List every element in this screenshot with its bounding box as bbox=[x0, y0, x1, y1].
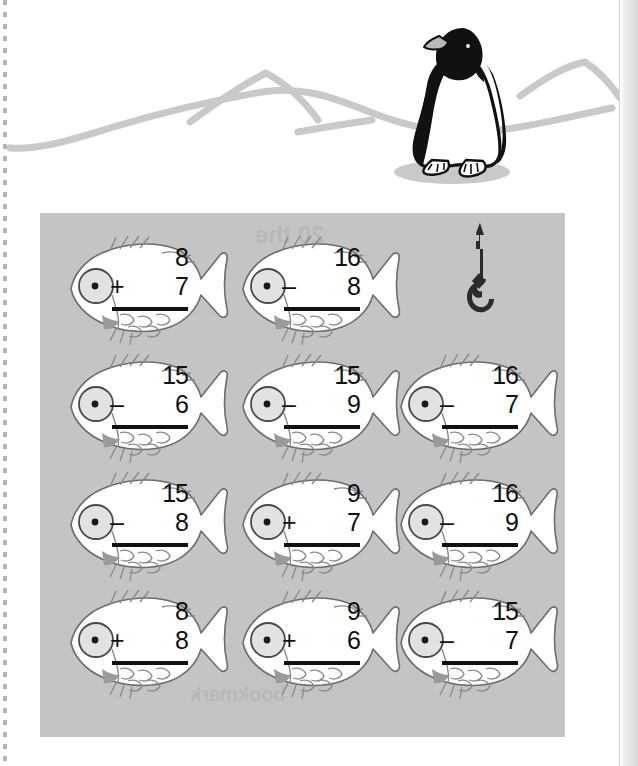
problem-operator: – bbox=[282, 392, 296, 417]
problem-top-number: 15 bbox=[334, 363, 360, 388]
problem-bottom-number: 7 bbox=[347, 510, 360, 535]
math-problem[interactable]: 15 – 6 bbox=[110, 363, 194, 439]
problem-operator: – bbox=[282, 274, 296, 299]
answer-line bbox=[442, 425, 518, 429]
problem-bottom-number: 6 bbox=[175, 392, 188, 417]
math-problem[interactable]: 9 + 6 bbox=[282, 599, 366, 675]
problem-top-number: 8 bbox=[175, 245, 188, 270]
answer-line bbox=[284, 661, 360, 665]
problem-panel: 20 the Set the subtraction bookmark bbox=[40, 213, 565, 737]
fish-cell[interactable]: 16 – 9 bbox=[388, 465, 560, 583]
answer-line bbox=[112, 307, 188, 311]
math-problem[interactable]: 16 – 8 bbox=[282, 245, 366, 321]
problem-top-number: 16 bbox=[492, 363, 518, 388]
fish-cell[interactable]: 9 + 7 bbox=[230, 465, 402, 583]
problem-operator: + bbox=[282, 510, 297, 535]
problem-bottom-number: 8 bbox=[347, 274, 360, 299]
problem-bottom-number: 8 bbox=[175, 628, 188, 653]
problem-operator: + bbox=[282, 628, 297, 653]
answer-line bbox=[442, 661, 518, 665]
fish-cell[interactable]: 15 – 6 bbox=[58, 347, 230, 465]
answer-line bbox=[284, 543, 360, 547]
problem-operator: – bbox=[440, 510, 454, 535]
page-gutter bbox=[620, 0, 638, 766]
fish-cell[interactable]: 9 + 6 bbox=[230, 583, 402, 701]
worksheet-page: 20 the Set the subtraction bookmark bbox=[0, 0, 638, 766]
problem-bottom-number: 7 bbox=[505, 392, 518, 417]
math-problem[interactable]: 9 + 7 bbox=[282, 481, 366, 557]
fish-cell[interactable]: 15 – 8 bbox=[58, 465, 230, 583]
answer-line bbox=[112, 543, 188, 547]
problem-operator: – bbox=[440, 392, 454, 417]
problem-top-number: 9 bbox=[347, 599, 360, 624]
problem-bottom-number: 7 bbox=[175, 274, 188, 299]
problem-operator: – bbox=[440, 628, 454, 653]
snow-hills-icon bbox=[10, 62, 620, 148]
problem-top-number: 9 bbox=[347, 481, 360, 506]
problem-top-number: 15 bbox=[492, 599, 518, 624]
math-problem[interactable]: 15 – 7 bbox=[440, 599, 524, 675]
penguin bbox=[414, 28, 506, 176]
problem-operator: + bbox=[110, 274, 125, 299]
math-problem[interactable]: 15 – 9 bbox=[282, 363, 366, 439]
fish-grid: 8 + 7 bbox=[40, 213, 565, 737]
problem-bottom-number: 8 bbox=[175, 510, 188, 535]
fish-cell[interactable]: 8 + 8 bbox=[58, 583, 230, 701]
answer-line bbox=[112, 425, 188, 429]
fish-cell[interactable]: 15 – 9 bbox=[230, 347, 402, 465]
problem-top-number: 16 bbox=[334, 245, 360, 270]
fish-cell[interactable]: 16 – 7 bbox=[388, 347, 560, 465]
penguin-eye bbox=[466, 44, 470, 48]
math-problem[interactable]: 16 – 9 bbox=[440, 481, 524, 557]
math-problem[interactable]: 15 – 8 bbox=[110, 481, 194, 557]
answer-line bbox=[442, 543, 518, 547]
arctic-scene bbox=[0, 0, 620, 205]
answer-line bbox=[112, 661, 188, 665]
math-problem[interactable]: 8 + 8 bbox=[110, 599, 194, 675]
problem-operator: – bbox=[110, 510, 124, 535]
fish-cell[interactable]: 16 – 8 bbox=[230, 229, 402, 347]
problem-top-number: 16 bbox=[492, 481, 518, 506]
problem-operator: + bbox=[110, 628, 125, 653]
problem-operator: – bbox=[110, 392, 124, 417]
problem-bottom-number: 9 bbox=[347, 392, 360, 417]
fish-cell[interactable]: 15 – 7 bbox=[388, 583, 560, 701]
problem-top-number: 15 bbox=[162, 363, 188, 388]
answer-line bbox=[284, 307, 360, 311]
problem-top-number: 8 bbox=[175, 599, 188, 624]
answer-line bbox=[284, 425, 360, 429]
problem-bottom-number: 9 bbox=[505, 510, 518, 535]
math-problem[interactable]: 8 + 7 bbox=[110, 245, 194, 321]
problem-bottom-number: 7 bbox=[505, 628, 518, 653]
fish-cell[interactable]: 8 + 7 bbox=[58, 229, 230, 347]
problem-top-number: 15 bbox=[162, 481, 188, 506]
math-problem[interactable]: 16 – 7 bbox=[440, 363, 524, 439]
problem-bottom-number: 6 bbox=[347, 628, 360, 653]
